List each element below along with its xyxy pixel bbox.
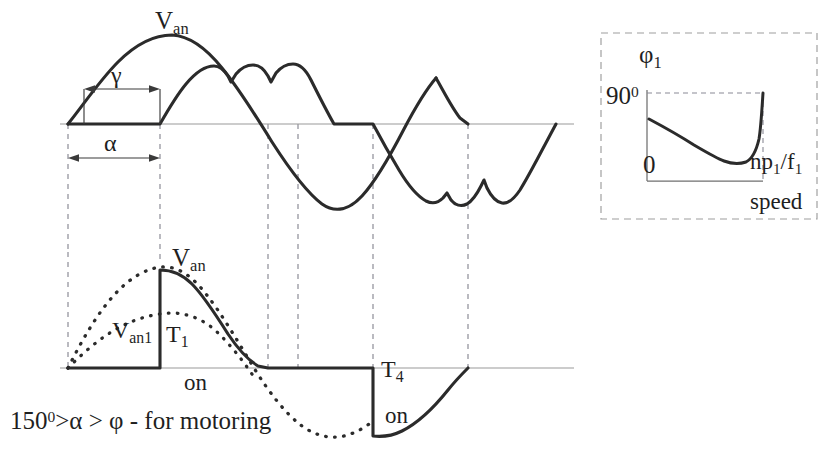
figure-caption: 1500>α > φ - for motoring: [10, 408, 271, 433]
alpha-label: α: [104, 131, 117, 155]
figure-root: Van γ α Van Van1 T1 on T4 on 1500>α > φ …: [0, 0, 824, 451]
inset-90deg-label: 900: [606, 83, 639, 108]
gamma-dimension: [84, 85, 160, 124]
thyristor-t1-label: T1: [166, 322, 189, 346]
t1-on-label: on: [184, 371, 207, 394]
inset-phi1-label: φ1: [639, 42, 662, 67]
inset-origin-label: 0: [643, 152, 656, 177]
gamma-arrow-right: [149, 85, 160, 93]
thyristor-t4-label: T4: [381, 357, 404, 381]
alpha-arrow-right: [149, 154, 160, 162]
top-plot-group: [60, 35, 574, 209]
gamma-label: γ: [111, 63, 122, 87]
top-van-label: Van: [155, 8, 189, 33]
t4-on-label: on: [385, 404, 408, 427]
top-output-rising-branch: [436, 78, 468, 124]
inset-xaxis-label: speed: [750, 190, 802, 213]
inset-xtick-label: np1/f1: [750, 150, 802, 173]
figure-canvas: [0, 0, 824, 451]
top-reference-sinusoid: [68, 35, 436, 209]
bottom-van1-label: Van1: [112, 318, 152, 342]
top-converter-output: [68, 64, 556, 205]
inset-phi-curve: [649, 93, 763, 163]
bottom-van-label: Van: [172, 245, 206, 270]
alpha-arrow-left: [68, 154, 79, 162]
gamma-arrow-left: [84, 85, 95, 93]
